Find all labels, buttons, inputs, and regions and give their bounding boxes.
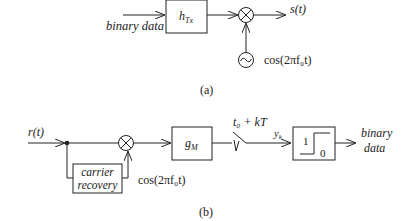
mixer-icon (239, 8, 254, 23)
output-signal-label: s(t) (290, 2, 306, 16)
sampling-time-label: t₀ + kT (233, 115, 268, 129)
transmit-filter-label: hTx (179, 9, 193, 25)
decision-low-label: 0 (320, 147, 326, 159)
binary-data-input-label: binary data (106, 19, 164, 33)
oscillator-label: cos(2πf₀t) (264, 53, 312, 67)
carrier-recovery-label-2: recovery (78, 179, 119, 192)
received-signal-label: r(t) (28, 125, 44, 139)
carrier-recovery-label-1: carrier (81, 166, 114, 178)
sample-output-label: yk (273, 128, 283, 141)
caption-b: (b) (199, 205, 213, 219)
sampler-switch-icon (233, 132, 246, 151)
caption-a: (a) (200, 83, 213, 97)
decision-high-label: 1 (303, 135, 309, 147)
block-diagram: binary data hTx s(t) cos(2πf₀t) (a) r(t) (0, 0, 410, 221)
mixer-icon (119, 136, 134, 151)
carrier-label: cos(2πf₀t) (138, 173, 186, 187)
recovery-feed-line (67, 143, 73, 178)
binary-data-output-label-2: data (364, 141, 385, 155)
matched-filter-label: gM (185, 136, 199, 152)
transmitter-diagram: binary data hTx s(t) cos(2πf₀t) (a) (106, 0, 312, 97)
recovered-carrier-arrow (122, 152, 128, 178)
binary-data-output-label-1: binary (361, 126, 393, 140)
receiver-diagram: r(t) carrier recovery cos(2πf₀t) gM t₀ +… (28, 115, 393, 219)
oscillator-icon (239, 53, 254, 68)
